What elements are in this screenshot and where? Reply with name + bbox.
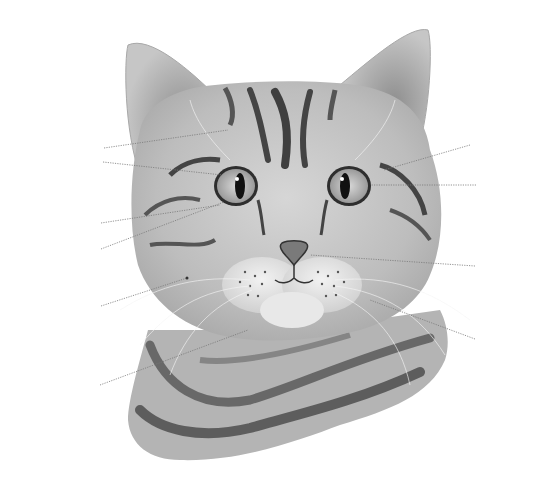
left-eye <box>214 166 258 206</box>
chin <box>260 292 324 328</box>
label-paupiere-superieure-text: x <box>0 143 101 156</box>
cat-anatomy-diagram: x <box>0 0 545 491</box>
right-eye <box>327 166 371 206</box>
cat-head-illustration <box>0 0 545 491</box>
